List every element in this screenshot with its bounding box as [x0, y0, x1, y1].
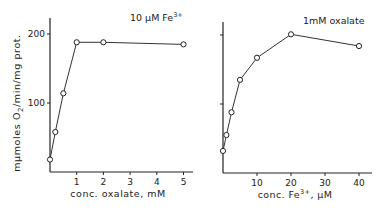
left-x-axis-label: conc. oxalate, mM	[70, 188, 165, 199]
left-annotation: 10 µM Fe3+	[130, 11, 183, 23]
x-tick-label: 30	[319, 178, 331, 188]
data-point	[74, 40, 79, 45]
x-tick-label: 3	[127, 177, 133, 187]
data-point	[181, 42, 186, 47]
data-point	[47, 157, 52, 162]
x-tick-label: 40	[353, 178, 365, 188]
data-line	[50, 42, 184, 159]
data-point	[53, 129, 58, 134]
chart-iron: 10203040	[220, 22, 372, 188]
x-tick-label: 4	[154, 177, 160, 187]
y-axis-label: mµmoles O2/min/mg prot.	[11, 34, 25, 171]
data-point	[224, 132, 229, 137]
data-point	[61, 91, 66, 96]
x-tick-label: 2	[101, 177, 107, 187]
data-line	[223, 34, 359, 151]
chart-oxalate: 12345100200	[28, 18, 193, 187]
data-point	[220, 148, 225, 153]
y-tick-label: 100	[28, 98, 45, 108]
data-point	[356, 43, 361, 48]
x-tick-label: 1	[74, 177, 80, 187]
x-tick-label: 5	[181, 177, 187, 187]
data-point	[288, 32, 293, 37]
x-tick-label: 10	[251, 178, 263, 188]
data-point	[254, 55, 259, 60]
right-annotation: 1mM oxalate	[303, 15, 365, 26]
data-point	[229, 110, 234, 115]
figure: 12345100200 10203040 mµmoles O2/min/mg p…	[0, 0, 383, 213]
data-point	[101, 40, 106, 45]
right-x-axis-label: conc. Fe3+, µM	[258, 188, 333, 200]
x-tick-label: 20	[285, 178, 297, 188]
data-point	[237, 77, 242, 82]
y-tick-label: 200	[28, 29, 45, 39]
